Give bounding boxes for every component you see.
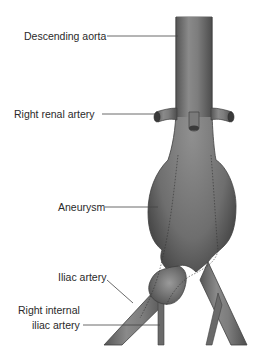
- label-right-internal-iliac-artery-line1: Right internal: [18, 304, 80, 316]
- leader-iliac-artery: [107, 280, 133, 303]
- descending-aorta-column: [176, 17, 212, 117]
- left-common-iliac-artery: [200, 262, 247, 345]
- label-aneurysm: Aneurysm: [58, 201, 105, 213]
- label-iliac-artery: Iliac artery: [58, 271, 106, 283]
- anterior-branch-opening: [189, 126, 199, 131]
- right-renal-artery-opening: [154, 112, 160, 122]
- left-renal-artery-opening: [228, 112, 234, 122]
- label-descending-aorta: Descending aorta: [24, 30, 106, 42]
- iliac-aneurysm-bulge: [149, 266, 186, 305]
- label-right-internal-iliac-artery-line2: iliac artery: [32, 319, 80, 331]
- aorta-illustration: [0, 0, 264, 351]
- aorta-diagram: Descending aorta Right renal artery Aneu…: [0, 0, 264, 351]
- right-internal-iliac-artery: [158, 300, 164, 345]
- label-right-renal-artery: Right renal artery: [14, 108, 95, 120]
